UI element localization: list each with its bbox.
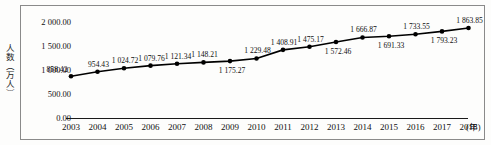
data-point-value-label: 1 175.27: [219, 67, 246, 75]
x-axis-tick-label: 2006: [142, 121, 160, 134]
x-axis-tick-label: 2011: [274, 121, 292, 134]
x-axis-tick-label: 2003: [62, 121, 80, 134]
y-axis-tick-label: 500.00: [13, 89, 71, 98]
data-point-value-label: 1 121.34: [165, 53, 192, 61]
data-point-value-label: 1 148.21: [191, 51, 218, 59]
data-point-marker: [148, 63, 153, 68]
x-axis-tick-label: 2013: [327, 121, 345, 134]
data-point-marker: [122, 66, 127, 71]
data-point-marker: [228, 59, 233, 64]
y-axis-tick-label: 1 500.00: [13, 41, 71, 50]
data-point-value-label: 1 572.46: [325, 48, 352, 56]
x-axis-tick-label: 2015: [380, 121, 398, 134]
data-point-marker: [413, 32, 418, 37]
data-point-marker: [440, 29, 445, 34]
data-point-marker: [281, 48, 286, 53]
data-point-value-label: 954.43: [88, 61, 109, 69]
data-point-marker: [69, 74, 74, 79]
data-point-value-label: 1 691.33: [378, 42, 405, 50]
x-axis-tick-label: 2012: [301, 121, 319, 134]
data-point-value-label: 1 733.55: [403, 23, 430, 31]
data-point-value-label: 1 024.72: [112, 57, 139, 65]
data-point-value-label: 1 408.91: [271, 39, 298, 47]
x-axis-tick-label: 2010: [248, 121, 266, 134]
x-axis-tick-label: 2007: [168, 121, 186, 134]
data-point-marker: [95, 69, 100, 74]
x-axis-line: [66, 118, 468, 119]
data-point-value-label: 1 666.87: [350, 26, 377, 34]
data-point-marker: [254, 56, 259, 61]
data-point-value-label: 1 863.85: [456, 17, 483, 25]
data-point-marker: [334, 40, 339, 45]
data-point-marker: [387, 34, 392, 39]
data-point-marker: [360, 35, 365, 40]
data-point-value-label: 1 079.76: [138, 55, 165, 63]
data-point-marker: [466, 26, 471, 31]
data-point-marker: [307, 44, 312, 49]
x-axis-tick-label: 2004: [89, 121, 107, 134]
data-point-marker: [175, 61, 180, 66]
x-axis-tick-label: 2009: [221, 121, 239, 134]
x-axis-tick-labels: (年) 200320042005200620072008200920102011…: [0, 121, 491, 135]
data-point-value-label: 1 229.48: [244, 47, 271, 55]
x-axis-tick-label: 2014: [354, 121, 372, 134]
x-axis-tick-label: 2005: [115, 121, 133, 134]
x-axis-tick-label: 2008: [195, 121, 213, 134]
data-point-value-label: 1 475.17: [297, 36, 324, 44]
data-point-marker: [201, 60, 206, 65]
chart-figure: 人数（万人） 0.00500.001 000.001 500.002 000.0…: [0, 0, 491, 145]
y-axis-tick-label: 2 000.00: [13, 17, 71, 26]
x-axis-tick-label: 2016: [407, 121, 425, 134]
x-axis-tick-label: 2017: [433, 121, 451, 134]
data-point-value-label: 1 793.23: [431, 37, 458, 45]
x-axis-tick-label: 2018: [460, 121, 478, 134]
data-point-value-label: 858.42: [47, 66, 68, 74]
